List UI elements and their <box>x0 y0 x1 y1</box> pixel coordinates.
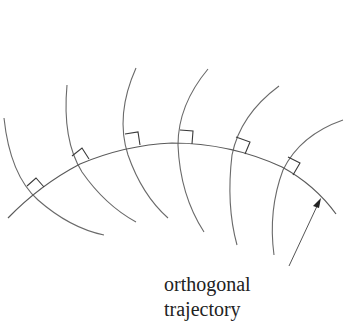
label-trajectory: trajectory <box>164 297 241 321</box>
family-curve-4 <box>178 69 208 232</box>
family-curve-5 <box>230 86 279 245</box>
family-curve-3 <box>123 68 168 218</box>
label-orthogonal: orthogonal <box>164 272 251 296</box>
right-angle-marker-4 <box>180 130 193 144</box>
orthogonal-trajectory-curve <box>8 143 336 218</box>
diagram-canvas: orthogonal trajectory <box>0 0 346 323</box>
right-angle-marker-6 <box>288 157 300 175</box>
family-curve-1 <box>4 118 104 235</box>
family-curve-2 <box>66 85 136 222</box>
arrowhead-icon <box>313 198 321 208</box>
right-angle-marker-1 <box>27 178 44 187</box>
family-curve-6 <box>272 120 343 255</box>
right-angle-marker-3 <box>125 132 140 145</box>
pointer-arrow-line <box>289 204 318 266</box>
